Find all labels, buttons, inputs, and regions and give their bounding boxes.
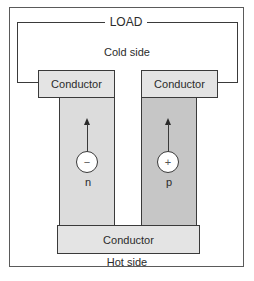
p-leg-label: p xyxy=(158,176,180,188)
hot-side-label: Hot side xyxy=(77,256,177,268)
n-arrow-stem xyxy=(87,124,88,152)
conductor-top-right: Conductor xyxy=(141,70,218,98)
load-wire-right-vertical xyxy=(237,22,238,83)
load-wire-right-to-conductor xyxy=(217,82,238,83)
conductor-top-left: Conductor xyxy=(38,70,115,98)
n-leg-label: n xyxy=(77,176,99,188)
hole-carrier-icon: + xyxy=(157,151,179,173)
load-wire-right-horizontal xyxy=(147,22,237,23)
load-label: LOAD xyxy=(105,15,147,29)
electron-carrier-icon: − xyxy=(76,151,98,173)
conductor-bottom: Conductor xyxy=(57,225,200,254)
load-wire-left-vertical xyxy=(17,22,18,83)
load-wire-left-horizontal xyxy=(17,22,105,23)
p-arrow-stem xyxy=(168,124,169,152)
load-wire-left-to-conductor xyxy=(17,82,38,83)
cold-side-label: Cold side xyxy=(77,46,177,58)
